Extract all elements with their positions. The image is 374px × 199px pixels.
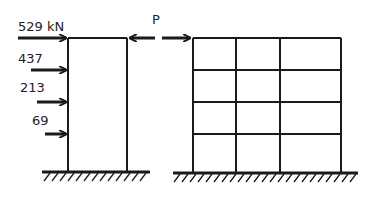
left-ground-support: [42, 172, 150, 181]
load-arrow-213: 213: [20, 80, 66, 102]
right-ground-support: [173, 173, 358, 182]
load-label-437: 437: [18, 51, 43, 66]
left-frame: [68, 38, 127, 172]
load-label-529: 529 kN: [18, 19, 64, 34]
load-arrow-437: 437: [18, 51, 66, 70]
link-force-p: P: [130, 12, 190, 38]
structural-diagram: 529 kN 437 213 69 P: [0, 0, 374, 199]
load-arrow-529: 529 kN: [18, 19, 66, 38]
load-arrow-69: 69: [32, 113, 66, 134]
link-force-label: P: [152, 12, 160, 27]
right-frame: [193, 38, 341, 172]
load-label-213: 213: [20, 80, 45, 95]
load-label-69: 69: [32, 113, 49, 128]
